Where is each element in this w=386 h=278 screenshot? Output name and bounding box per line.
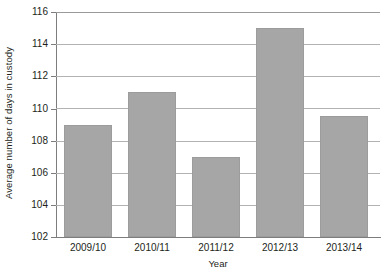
x-tick-label-2011-12: 2011/12 [184, 241, 248, 255]
y-tick-label: 106 [6, 168, 48, 178]
y-tick-label: 114 [6, 39, 48, 49]
y-tick-label: 102 [6, 232, 48, 242]
bar-2011-12[interactable] [192, 157, 240, 237]
y-tick-label: 108 [6, 136, 48, 146]
bar-2009-10[interactable] [64, 125, 112, 238]
x-tick-label-2009-10: 2009/10 [56, 241, 120, 255]
x-tick-label-2012-13: 2012/13 [248, 241, 312, 255]
y-tick-label: 110 [6, 104, 48, 114]
y-axis-tick-labels: 116 114 112 110 108 106 104 102 [0, 0, 48, 278]
bar-2013-14[interactable] [320, 116, 368, 237]
x-axis-line [56, 237, 381, 238]
x-axis-tick-labels: 2009/10 2010/11 2011/12 2012/13 2013/14 [56, 241, 380, 257]
x-tick-label-2010-11: 2010/11 [120, 241, 184, 255]
bars-layer [56, 12, 380, 237]
x-axis-title: Year [56, 258, 380, 270]
x-tick-label-2013-14: 2013/14 [312, 241, 376, 255]
y-tick-label: 112 [6, 71, 48, 81]
bar-2012-13[interactable] [256, 28, 304, 237]
y-tick-label: 104 [6, 200, 48, 210]
bar-2010-11[interactable] [128, 92, 176, 237]
y-tick-label: 116 [6, 7, 48, 17]
bar-chart: Average number of days in custody 116 11… [0, 0, 386, 278]
